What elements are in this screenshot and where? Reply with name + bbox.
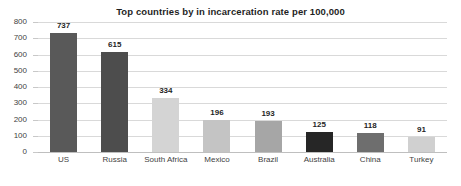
bar-group[interactable]: 615 xyxy=(101,22,128,152)
bar-us[interactable] xyxy=(50,33,77,152)
x-tick-label-russia: Russia xyxy=(102,155,126,165)
bar-group[interactable]: 737 xyxy=(50,22,77,152)
bar-turkey[interactable] xyxy=(408,137,435,152)
y-tick-label: 0 xyxy=(23,148,27,156)
bar-group[interactable]: 334 xyxy=(152,22,179,152)
bar-value-label: 193 xyxy=(261,110,274,118)
bar-group[interactable]: 125 xyxy=(306,22,333,152)
gridline xyxy=(38,103,447,104)
y-tick-label: 500 xyxy=(14,67,27,75)
x-tick-label-brazil: Brazil xyxy=(258,155,278,165)
y-tick-label: 100 xyxy=(14,132,27,140)
gridline xyxy=(38,120,447,121)
bar-mexico[interactable] xyxy=(203,120,230,152)
bar-group[interactable]: 196 xyxy=(203,22,230,152)
bar-russia[interactable] xyxy=(101,52,128,152)
x-tick-label-australia: Australia xyxy=(304,155,335,165)
x-axis: USRussiaSouth AfricaMexicoBrazilAustrali… xyxy=(38,155,447,171)
y-tick-label: 700 xyxy=(14,34,27,42)
x-tick-label-turkey: Turkey xyxy=(409,155,433,165)
x-tick-label-south-africa: South Africa xyxy=(144,155,187,165)
y-tick-label: 800 xyxy=(14,18,27,26)
y-tick-label: 200 xyxy=(14,116,27,124)
bar-value-label: 737 xyxy=(57,22,70,30)
gridline xyxy=(38,136,447,137)
gridline xyxy=(38,55,447,56)
bar-value-label: 196 xyxy=(210,109,223,117)
gridline xyxy=(38,38,447,39)
plot-area: 73761533419619312511891 xyxy=(38,22,447,152)
gridline xyxy=(38,71,447,72)
bar-value-label: 615 xyxy=(108,41,121,49)
x-tick-label-us: US xyxy=(58,155,69,165)
chart-title: Top countries by in incarceration rate p… xyxy=(0,6,461,17)
y-tick-label: 600 xyxy=(14,51,27,59)
bar-chart: Top countries by in incarceration rate p… xyxy=(0,0,461,186)
x-tick-label-mexico: Mexico xyxy=(204,155,229,165)
bar-group[interactable]: 193 xyxy=(255,22,282,152)
gridline xyxy=(38,152,447,153)
bar-group[interactable]: 91 xyxy=(408,22,435,152)
bar-australia[interactable] xyxy=(306,132,333,152)
bar-brazil[interactable] xyxy=(255,121,282,152)
x-tick-label-china: China xyxy=(360,155,381,165)
bar-value-label: 334 xyxy=(159,87,172,95)
bar-group[interactable]: 118 xyxy=(357,22,384,152)
gridline xyxy=(38,87,447,88)
y-axis: 0100200300400500600700800 xyxy=(0,22,33,152)
bar-south-africa[interactable] xyxy=(152,98,179,152)
y-tick-label: 400 xyxy=(14,83,27,91)
bar-value-label: 118 xyxy=(364,122,377,130)
gridline xyxy=(38,22,447,23)
bar-china[interactable] xyxy=(357,133,384,152)
bar-value-label: 91 xyxy=(417,126,426,134)
bar-value-label: 125 xyxy=(313,121,326,129)
y-tick-label: 300 xyxy=(14,99,27,107)
